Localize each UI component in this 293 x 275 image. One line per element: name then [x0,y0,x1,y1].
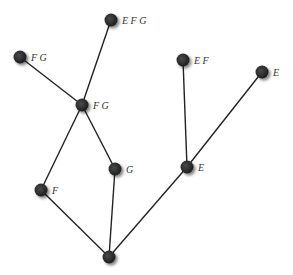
node: E F [177,54,210,67]
edge [41,105,82,190]
node: F [35,184,60,197]
edges-layer [20,20,262,257]
node-label: G [126,164,133,175]
lattice-diagram: E F GF GF GE FEGEF [0,0,293,275]
edge [82,20,111,105]
node-circle [177,54,190,67]
node-label: F G [30,52,47,63]
edge [109,169,115,257]
node-label: F [51,185,59,196]
edge [187,72,262,167]
edge [109,167,187,257]
edge [82,105,115,169]
edge [20,57,82,105]
node-circle [181,161,194,174]
node-circle [105,14,118,27]
node-circle [35,184,48,197]
node: F G [76,99,109,112]
node-label: E F G [121,15,146,26]
node-label: E [272,67,279,78]
node-label: F G [92,100,109,111]
node-label: E F [193,55,210,66]
node-circle [14,51,27,64]
node-circle [256,66,269,79]
node-label: E [197,162,204,173]
node: E F G [105,14,147,27]
edge [183,60,187,167]
node: E [256,66,280,79]
node-circle [109,163,122,176]
node-circle [76,99,89,112]
node: G [109,163,134,176]
edge [41,190,109,257]
node: E [181,161,205,174]
node [103,251,116,264]
nodes-layer: E F GF GF GE FEGEF [14,14,280,264]
node: F G [14,51,47,64]
node-circle [103,251,116,264]
